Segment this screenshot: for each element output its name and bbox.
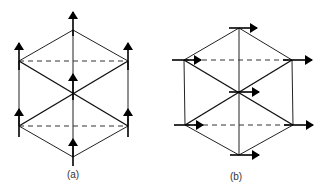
panel-b-spin-arrows: [172, 28, 313, 155]
edge: [19, 30, 73, 61]
edge: [239, 125, 293, 155]
panel-a-label: (a): [67, 169, 79, 180]
panel-b-label: (b): [230, 171, 242, 182]
edge: [184, 28, 239, 60]
figure: (a) (b): [0, 0, 326, 192]
edge: [73, 30, 128, 61]
edge: [185, 125, 239, 155]
edge: [19, 126, 73, 157]
panel-a-spin-arrows: [19, 12, 128, 166]
vertical-line: [292, 60, 293, 125]
edge: [239, 28, 292, 60]
vertical-line: [184, 60, 185, 125]
edge: [73, 126, 128, 157]
